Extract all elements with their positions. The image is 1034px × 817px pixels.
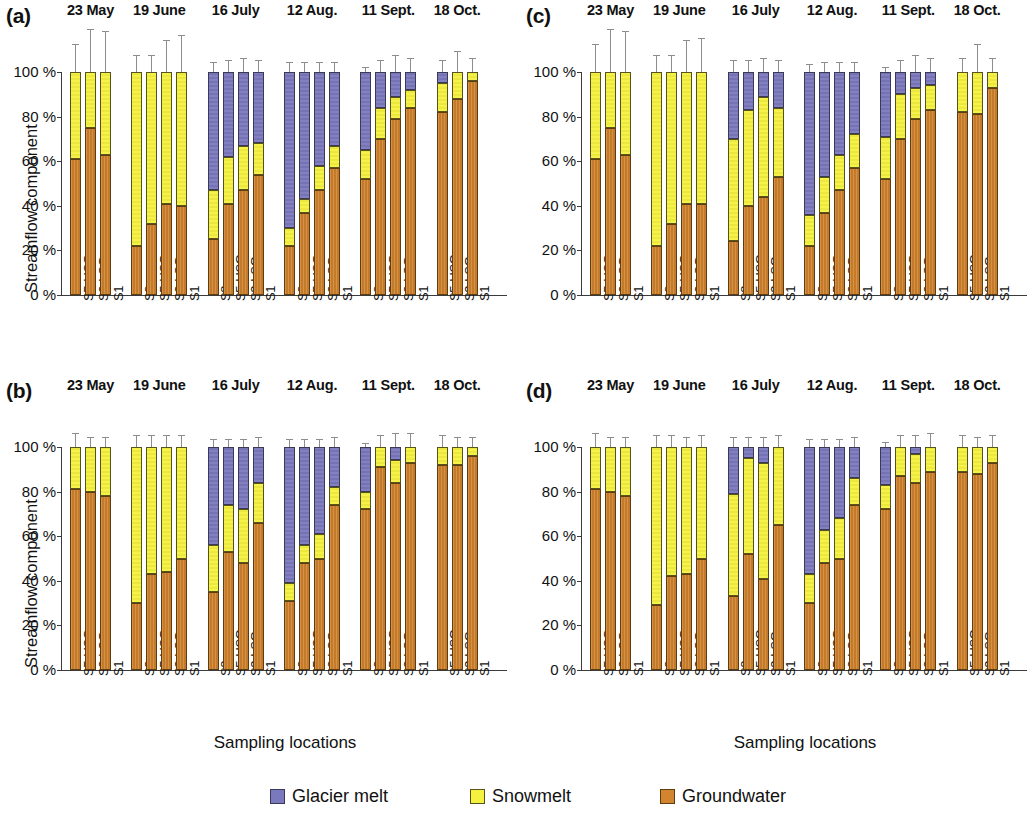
error-bar-cap — [897, 60, 904, 61]
stacked-bar — [375, 72, 386, 295]
x-axis-tick-label: S1 — [477, 286, 492, 301]
date-group-label: 18 Oct. — [932, 2, 1022, 18]
bar-segment-glacier — [208, 72, 219, 190]
y-axis-tick-label: 40 % — [542, 572, 576, 589]
bar-segment-gw — [666, 576, 677, 670]
bar-segment-glacier — [299, 72, 310, 199]
figure-legend: Glacier melt Snowmelt Groundwater — [0, 780, 1034, 814]
bar-segment-snow — [972, 72, 983, 114]
stacked-bar — [758, 72, 769, 295]
bar-segment-glacier — [223, 447, 234, 505]
bar-segment-snow — [146, 447, 157, 574]
error-bar-cap — [851, 62, 858, 63]
error-bar — [213, 63, 214, 72]
error-bar — [854, 63, 855, 72]
error-bar — [472, 59, 473, 72]
panel-d: (d)0 %20 %40 %60 %80 %100 %S5-USGS3-LSGS… — [520, 375, 1034, 755]
y-tick-mark — [577, 161, 581, 162]
bar-segment-snow — [405, 90, 416, 108]
bar-segment-gw — [176, 206, 187, 295]
bar-segment-gw — [176, 559, 187, 671]
bar-segment-snow — [728, 139, 739, 242]
error-bar-cap — [316, 439, 323, 440]
error-bar-cap — [407, 433, 414, 434]
y-tick-mark — [57, 206, 61, 207]
error-bar-cap — [622, 437, 629, 438]
stacked-bar — [773, 72, 784, 295]
bar-segment-glacier — [728, 72, 739, 139]
bar-segment-snow — [987, 447, 998, 463]
stacked-bar — [390, 447, 401, 670]
y-tick-mark — [577, 581, 581, 582]
error-bar-cap — [821, 439, 828, 440]
stacked-bar — [925, 72, 936, 295]
stacked-bar — [452, 72, 463, 295]
panel-label: (b) — [6, 379, 32, 403]
error-bar-cap — [668, 55, 675, 56]
y-tick-mark — [577, 72, 581, 73]
stacked-bar — [972, 72, 983, 295]
bar-segment-gw — [405, 108, 416, 295]
error-bar — [319, 440, 320, 447]
bar-segment-gw — [880, 179, 891, 295]
stacked-bar — [390, 72, 401, 295]
bar-segment-gw — [146, 574, 157, 670]
error-bar — [334, 63, 335, 72]
bar-segment-glacier — [804, 447, 815, 574]
bar-segment-snow — [834, 155, 845, 191]
error-bar-cap — [87, 437, 94, 438]
y-axis-tick-label: 80 % — [22, 483, 56, 500]
date-group-label: 18 Oct. — [932, 377, 1022, 393]
error-bar-cap — [362, 67, 369, 68]
error-bar-cap — [668, 435, 675, 436]
y-tick-mark — [57, 250, 61, 251]
error-bar-cap — [592, 433, 599, 434]
bar-segment-glacier — [895, 72, 906, 94]
error-bar-cap — [622, 31, 629, 32]
error-bar-cap — [225, 439, 232, 440]
error-bar-cap — [851, 437, 858, 438]
stacked-bar — [972, 447, 983, 670]
legend-item-groundwater: Groundwater — [660, 786, 786, 807]
error-bar-cap — [897, 435, 904, 436]
bar-segment-gw — [284, 601, 295, 670]
bar-segment-glacier — [238, 72, 249, 146]
bar-segment-gw — [651, 605, 662, 670]
bar-segment-snow — [100, 447, 111, 496]
bar-segment-glacier — [849, 72, 860, 134]
stacked-bar — [987, 447, 998, 670]
y-axis-tick-label: 100 % — [533, 438, 576, 455]
stacked-bar — [728, 72, 739, 295]
error-bar — [962, 436, 963, 447]
error-bar-cap — [745, 437, 752, 438]
stacked-bar — [161, 447, 172, 670]
error-bar — [962, 59, 963, 72]
error-bar — [656, 56, 657, 72]
bar-segment-snow — [161, 72, 172, 204]
error-bar-cap — [331, 62, 338, 63]
x-axis-tick-label: S1 — [997, 286, 1012, 301]
x-axis-tick-label: S1 — [860, 286, 875, 301]
bar-segment-gw — [849, 168, 860, 295]
error-bar — [289, 63, 290, 72]
error-bar — [181, 36, 182, 72]
bar-segment-gw — [728, 596, 739, 670]
bar-segment-glacier — [405, 72, 416, 90]
bar-segment-gw — [972, 114, 983, 295]
stacked-bar — [253, 72, 264, 295]
error-bar-cap — [102, 437, 109, 438]
bar-segment-gw — [437, 465, 448, 670]
y-tick-mark — [57, 117, 61, 118]
error-bar-cap — [439, 435, 446, 436]
bar-segment-snow — [452, 72, 463, 99]
stacked-bar — [590, 72, 601, 295]
bar-segment-glacier — [834, 72, 845, 155]
x-axis-line — [61, 670, 507, 671]
stacked-bar — [375, 447, 386, 670]
stacked-bar — [176, 447, 187, 670]
stacked-bar — [804, 447, 815, 670]
bar-segment-snow — [253, 483, 264, 523]
error-bar — [915, 436, 916, 447]
bar-segment-snow — [895, 447, 906, 476]
error-bar-cap — [178, 35, 185, 36]
